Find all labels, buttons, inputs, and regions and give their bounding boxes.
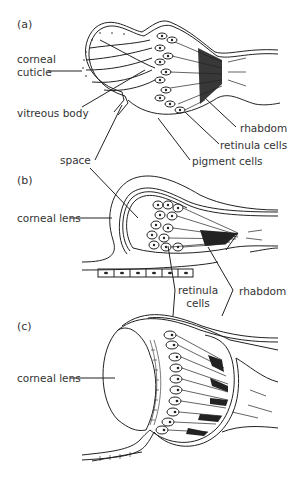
label-retinula-cells-b-line1: retinula: [176, 284, 220, 296]
label-rhabdom-b: rhabdom: [239, 285, 286, 297]
label-corneal-cuticle-line1: corneal: [17, 53, 56, 65]
label-corneal-cuticle-line2: cuticle: [17, 66, 52, 78]
label-space: space: [60, 154, 91, 166]
label-pigment-cells: pigment cells: [192, 155, 263, 167]
label-corneal-lens-c: corneal lens: [17, 372, 81, 384]
panel-label-b: (b): [17, 174, 33, 187]
label-vitreous-body: vitreous body: [17, 107, 89, 119]
label-retinula-cells-a: retinula cells: [220, 139, 287, 151]
label-retinula-cells-b-line2: cells: [176, 297, 220, 309]
panel-c-drawing: [70, 315, 278, 461]
panel-label-c: (c): [17, 320, 32, 333]
panel-label-a: (a): [17, 18, 32, 31]
label-rhabdom-a: rhabdom: [240, 122, 287, 134]
label-corneal-lens-b: corneal lens: [17, 212, 81, 224]
